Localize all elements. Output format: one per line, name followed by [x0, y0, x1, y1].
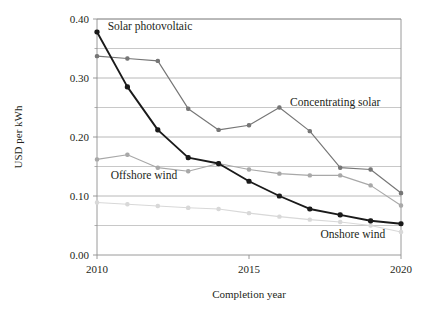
- data-point: [247, 167, 251, 171]
- data-point: [308, 173, 312, 177]
- y-tick-label: 0.20: [70, 131, 90, 143]
- data-point: [368, 183, 372, 187]
- data-point: [125, 202, 129, 206]
- data-point: [399, 230, 403, 234]
- data-point: [368, 167, 372, 171]
- data-point: [247, 123, 251, 127]
- x-tick-label: 2015: [238, 263, 261, 275]
- data-point: [399, 191, 403, 195]
- data-point: [156, 59, 160, 63]
- data-point: [277, 193, 282, 198]
- y-tick-label: 0.00: [70, 249, 90, 261]
- data-point: [338, 212, 343, 217]
- chart-container: 0.000.100.200.300.40 201020152020 Solar …: [0, 0, 430, 316]
- series-annotation: Offshore wind: [111, 169, 178, 181]
- data-point: [216, 207, 220, 211]
- x-tick-label: 2020: [390, 263, 413, 275]
- x-axis-title: Completion year: [212, 288, 286, 300]
- data-point: [95, 157, 99, 161]
- data-point: [186, 106, 190, 110]
- data-point: [338, 165, 342, 169]
- y-axis-title: USD per kWh: [12, 105, 24, 168]
- series-annotation: Solar photovoltaic: [108, 20, 193, 33]
- line-chart: 0.000.100.200.300.40 201020152020 Solar …: [0, 0, 430, 316]
- y-tick-label: 0.10: [70, 190, 90, 202]
- data-point: [186, 169, 190, 173]
- gridlines-group: [97, 19, 401, 226]
- data-point: [368, 223, 372, 227]
- data-point: [95, 200, 99, 204]
- data-point: [399, 203, 403, 207]
- series-annotation: Onshore wind: [320, 228, 385, 240]
- data-point: [94, 29, 99, 34]
- data-point: [307, 206, 312, 211]
- data-point: [277, 214, 281, 218]
- data-point: [156, 204, 160, 208]
- data-series-group: [94, 29, 403, 234]
- data-point: [216, 161, 221, 166]
- data-point: [308, 129, 312, 133]
- series-annotation: Concentrating solar: [290, 96, 381, 109]
- data-point: [216, 128, 220, 132]
- series-solar-photovoltaic: [94, 29, 403, 226]
- data-point: [338, 220, 342, 224]
- data-point: [308, 217, 312, 221]
- data-point: [398, 221, 403, 226]
- data-point: [368, 218, 373, 223]
- data-point: [186, 155, 191, 160]
- x-axis-ticks: 201020152020: [86, 255, 413, 275]
- y-tick-label: 0.40: [70, 13, 90, 25]
- x-tick-label: 2010: [86, 263, 109, 275]
- data-point: [338, 173, 342, 177]
- data-point: [277, 105, 281, 109]
- data-point: [125, 56, 129, 60]
- data-point: [246, 179, 251, 184]
- data-point: [155, 127, 160, 132]
- series-annotations: Solar photovoltaicConcentrating solarOff…: [108, 20, 386, 241]
- data-point: [277, 171, 281, 175]
- data-point: [186, 206, 190, 210]
- data-point: [125, 153, 129, 157]
- y-axis-ticks: 0.000.100.200.300.40: [70, 13, 97, 261]
- data-point: [125, 84, 130, 89]
- data-point: [95, 54, 99, 58]
- data-point: [247, 211, 251, 215]
- y-tick-label: 0.30: [70, 72, 90, 84]
- series-line: [97, 32, 401, 224]
